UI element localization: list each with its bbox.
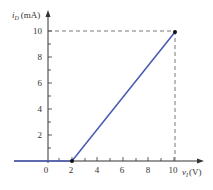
x-tick-label: 2 xyxy=(69,165,74,175)
x-tick-label: 10 xyxy=(169,165,179,175)
y-tick-label: 10 xyxy=(33,26,43,36)
y-tick-label: 4 xyxy=(38,104,43,114)
data-point-marker xyxy=(70,159,74,163)
y-axis-arrow-icon xyxy=(46,10,51,17)
y-tick-label: 2 xyxy=(38,130,43,140)
x-tick-label: 8 xyxy=(146,165,151,175)
x-ticks xyxy=(59,157,174,161)
y-axis-label: iD(mA) xyxy=(12,10,40,21)
data-point-marker xyxy=(173,30,177,34)
y-tick-label: 8 xyxy=(38,52,43,62)
x-axis-arrow-icon xyxy=(197,159,204,164)
y-tick-label: 6 xyxy=(38,78,43,88)
x-tick-label: 4 xyxy=(95,165,100,175)
y-ticks xyxy=(48,31,52,148)
chart: 10 8 6 4 2 0 2 4 6 8 10 iD(mA) vI(V) xyxy=(0,0,213,190)
x-axis-label: vI(V) xyxy=(182,167,202,178)
x-tick-label: 0 xyxy=(44,165,49,175)
x-tick-label: 6 xyxy=(120,165,125,175)
